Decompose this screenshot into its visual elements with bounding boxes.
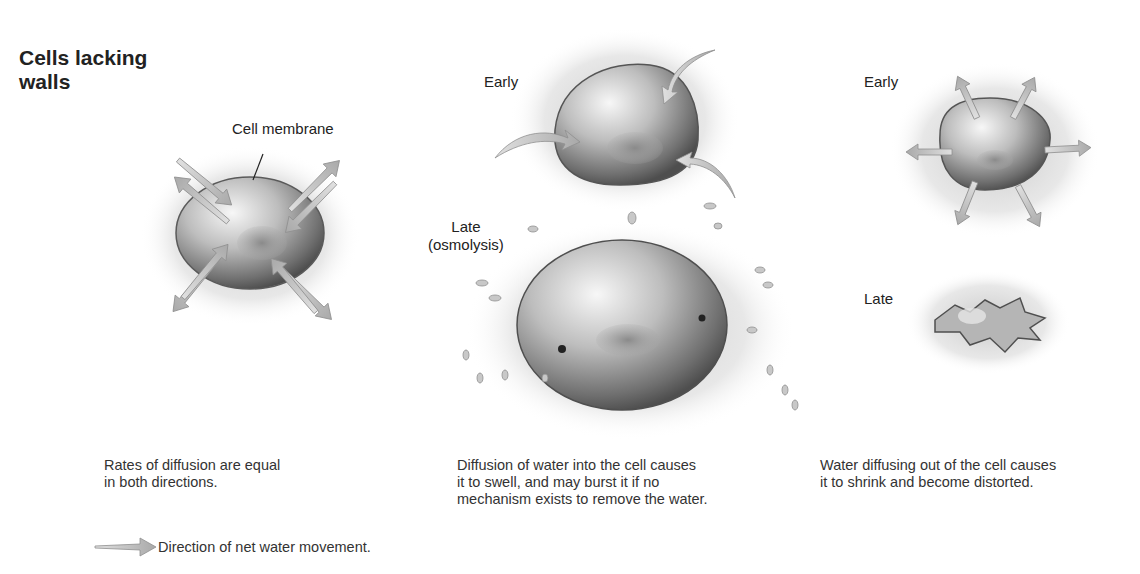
early-label-swelling: Early — [484, 73, 518, 91]
caption-line: it to shrink and become distorted. — [820, 474, 1056, 491]
figure-title: Cells lacking walls — [19, 46, 147, 94]
caption-line: mechanism exists to remove the water. — [457, 491, 708, 508]
legend-arrow-icon — [95, 538, 156, 556]
early-label-shrinking: Early — [864, 73, 898, 91]
late-label-line2: (osmolysis) — [428, 236, 504, 254]
isotonic-cell — [140, 146, 360, 326]
cell-membrane-label: Cell membrane — [232, 120, 334, 138]
late-osmolysis-label: Late (osmolysis) — [428, 218, 504, 254]
caption-line: in both directions. — [104, 474, 280, 491]
late-label-shrinking: Late — [864, 290, 893, 308]
caption-hypertonic: Water diffusing out of the cell causes i… — [820, 457, 1056, 491]
shrinking-cell-late — [906, 270, 1070, 374]
caption-line: Rates of diffusion are equal — [104, 457, 280, 474]
caption-line: Water diffusing out of the cell causes — [820, 457, 1056, 474]
swelling-cell-early — [495, 28, 740, 212]
swelling-cell-late-osmolysis — [463, 203, 798, 440]
legend-text: Direction of net water movement. — [158, 539, 371, 556]
caption-isotonic: Rates of diffusion are equal in both dir… — [104, 457, 280, 491]
caption-line: Diffusion of water into the cell causes — [457, 457, 708, 474]
title-line-1: Cells lacking — [19, 46, 147, 70]
title-line-2: walls — [19, 70, 147, 94]
late-label-line1: Late — [428, 218, 504, 236]
caption-line: it to swell, and may burst it if no — [457, 474, 708, 491]
shrinking-cell-early — [890, 62, 1100, 238]
caption-hypotonic: Diffusion of water into the cell causes … — [457, 457, 708, 508]
